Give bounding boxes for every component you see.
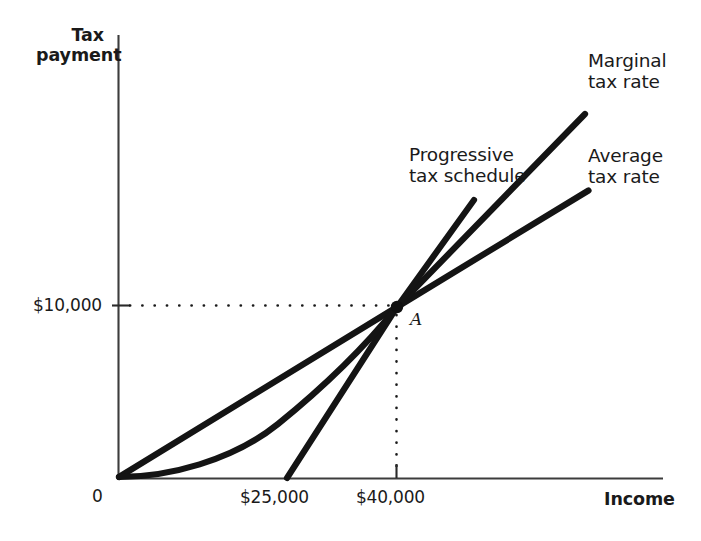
x-axis-title: Income bbox=[604, 490, 675, 510]
tax-rate-chart: Tax payment Income 0 $10,000 $25,000 $40… bbox=[0, 0, 701, 541]
progressive-tax-schedule-label: Progressive tax schedule bbox=[409, 144, 526, 186]
average-tax-rate-label: Average tax rate bbox=[588, 145, 663, 187]
x-tick-label-40000: $40,000 bbox=[356, 488, 425, 507]
origin-tick-label: 0 bbox=[92, 487, 103, 506]
progressive-tax-schedule-curve bbox=[119, 200, 474, 477]
y-axis-title: Tax payment bbox=[36, 26, 104, 66]
intersection-point-label: A bbox=[410, 310, 422, 329]
intersection-point-marker bbox=[391, 301, 403, 313]
marginal-tax-rate-label: Marginal tax rate bbox=[588, 50, 666, 92]
x-tick-label-25000: $25,000 bbox=[240, 488, 309, 507]
y-tick-label-10000: $10,000 bbox=[33, 296, 102, 315]
average-tax-rate-curve bbox=[119, 191, 589, 478]
